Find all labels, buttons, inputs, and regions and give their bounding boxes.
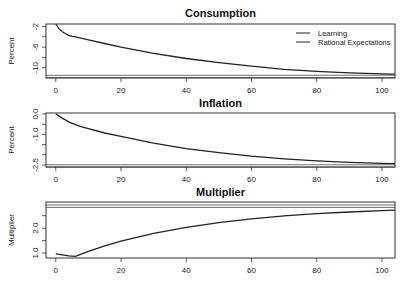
y-tick-label: -6	[31, 43, 40, 51]
legend: LearningRational Expectations	[296, 29, 391, 47]
x-tick-label: 60	[247, 175, 256, 184]
y-tick-label: -2	[31, 22, 40, 30]
x-tick-label: 0	[54, 86, 59, 95]
x-tick-label: 40	[182, 175, 191, 184]
x-tick-label: 80	[312, 86, 321, 95]
x-tick-label: 100	[375, 86, 389, 95]
x-tick-label: 40	[182, 86, 191, 95]
x-tick-label: 20	[117, 175, 126, 184]
legend-label: Learning	[318, 29, 347, 38]
panel-multiplier: MultiplierMultiplier1.02.0020406080100	[7, 186, 395, 275]
y-tick-label: 0.0	[31, 108, 40, 120]
x-tick-label: 0	[54, 266, 59, 275]
x-tick-label: 40	[182, 266, 191, 275]
plot-frame	[46, 202, 395, 258]
x-tick-label: 80	[312, 175, 321, 184]
panel-consumption: ConsumptionPercent-2-6-10020406080100Lea…	[7, 7, 395, 95]
y-axis-label: Percent	[7, 36, 16, 64]
figure: ConsumptionPercent-2-6-10020406080100Lea…	[0, 0, 405, 286]
x-tick-label: 20	[117, 266, 126, 275]
plot-frame	[46, 113, 395, 167]
y-tick-label: -1.0	[31, 127, 40, 141]
y-tick-label: -2.5	[31, 158, 40, 172]
chart-title-inflation: Inflation	[199, 97, 242, 109]
y-axis-label: Percent	[7, 125, 16, 153]
x-tick-label: 100	[375, 175, 389, 184]
y-axis-label: Multiplier	[7, 214, 16, 246]
x-tick-label: 0	[54, 175, 59, 184]
x-tick-label: 80	[312, 266, 321, 275]
x-tick-label: 20	[117, 86, 126, 95]
y-tick-label: 2.0	[31, 222, 40, 234]
x-tick-label: 60	[247, 266, 256, 275]
series-learning	[56, 210, 395, 256]
x-tick-label: 100	[375, 266, 389, 275]
x-tick-label: 60	[247, 86, 256, 95]
series-learning	[56, 114, 395, 164]
chart-title-consumption: Consumption	[185, 7, 256, 19]
y-tick-label: 1.0	[31, 247, 40, 259]
legend-label: Rational Expectations	[318, 38, 391, 47]
chart-title-multiplier: Multiplier	[196, 186, 246, 198]
panel-inflation: InflationPercent0.0-1.0-2.5020406080100	[7, 97, 395, 184]
y-tick-label: -10	[31, 61, 40, 73]
